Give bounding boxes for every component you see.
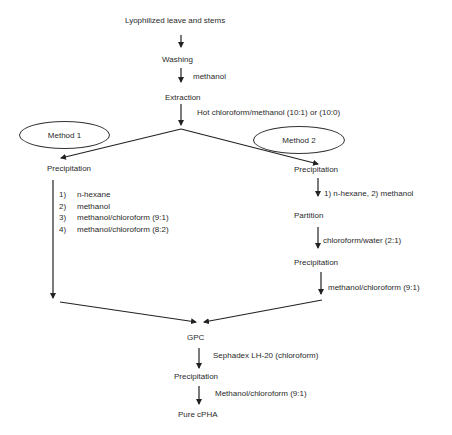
final-precipitation-label: Precipitation	[174, 372, 218, 382]
method-2-ellipse: Method 2	[253, 126, 345, 154]
method-2-precipitation-1-solvent: 1) n-hexane, 2) methanol	[324, 189, 413, 199]
washing-node-label: Washing	[162, 55, 193, 65]
method-2-precipitation-2-solvent: methanol/chloroform (9:1)	[328, 283, 420, 293]
method-2-label: Method 2	[282, 136, 315, 145]
method-1-solvent-steps: 1)n-hexane 2)methanol 3)methanol/chlorof…	[59, 189, 169, 235]
method-2-precipitation-1-label: Precipitation	[294, 165, 338, 175]
start-node-label: Lyophilized leave and stems	[125, 16, 225, 26]
step-item: 2)methanol	[59, 201, 169, 213]
extraction-solvent-label: Hot chloroform/methanol (10:1) or (10:0)	[197, 108, 340, 118]
gpc-node-label: GPC	[187, 333, 204, 343]
step-item: 4)methanol/chloroform (8:2)	[59, 224, 169, 236]
step-item: 1)n-hexane	[59, 189, 169, 201]
partition-solvent-label: chloroform/water (2:1)	[323, 236, 401, 246]
method-2-precipitation-2-label: Precipitation	[294, 258, 338, 268]
partition-node-label: Partition	[294, 211, 323, 221]
method-1-precipitation-label: Precipitation	[47, 164, 91, 174]
extraction-node-label: Extraction	[165, 93, 201, 103]
washing-solvent-label: methanol	[193, 72, 226, 82]
final-precipitation-solvent: Methanol/chloroform (9:1)	[215, 389, 307, 399]
method-1-ellipse: Method 1	[19, 121, 110, 149]
gpc-medium-label: Sephadex LH-20 (chloroform)	[213, 351, 318, 361]
step-item: 3)methanol/chloroform (9:1)	[59, 212, 169, 224]
pure-cpha-label: Pure cPHA	[178, 410, 218, 420]
method-1-label: Method 1	[48, 131, 81, 140]
